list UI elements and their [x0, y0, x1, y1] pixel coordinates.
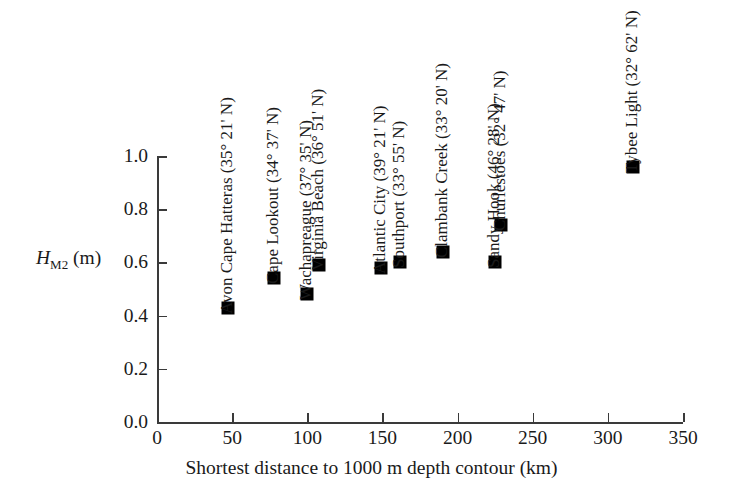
y-axis-tick-label: 0.4	[124, 306, 148, 326]
y-axis-tick	[158, 369, 167, 371]
scatter-chart-figure: HM2 (m) 0.00.20.40.60.81.0 0501001502002…	[0, 0, 743, 497]
x-axis-tick	[683, 413, 685, 422]
y-axis-tick	[158, 422, 167, 424]
y-axis-tick	[158, 316, 167, 318]
y-axis-tick-label: 0.0	[124, 412, 148, 432]
y-axis-tick-label: 0.2	[124, 359, 148, 379]
data-point-label: Wachapreague (37° 35' N)	[297, 120, 314, 300]
x-axis-tick	[458, 413, 460, 422]
data-point-label: Churlestoes (32° 47' N)	[491, 71, 508, 231]
data-point-label: Southport (33° 55' N)	[390, 121, 407, 268]
x-axis-tick	[382, 413, 384, 422]
x-axis-tick-label: 100	[293, 428, 322, 448]
x-axis-title: Shortest distance to 1000 m depth contou…	[0, 458, 743, 478]
x-axis-tick-label: 200	[443, 428, 472, 448]
y-axis-line	[157, 156, 159, 422]
y-axis-tick	[158, 262, 167, 264]
x-axis-tick-label: 250	[518, 428, 547, 448]
x-axis-tick-label: 150	[368, 428, 397, 448]
x-axis-tick-label: 0	[152, 428, 162, 448]
data-point-label: Atlantic City (39° 21' N)	[371, 105, 388, 274]
x-axis-tick	[157, 413, 159, 422]
plot-area: 0.00.20.40.60.81.0 050100150200250300350…	[157, 156, 683, 422]
data-point-label: Clambank Creek (33° 20' N)	[433, 63, 450, 258]
data-point-label: Avon Cape Hatteras (35° 21' N)	[218, 97, 235, 314]
x-axis-tick-label: 300	[593, 428, 622, 448]
y-axis-tick-label: 1.0	[124, 146, 148, 166]
data-point-label: Tybee Light (32° 62' N)	[623, 10, 640, 173]
data-point-label: Cape Lookout (34° 37' N)	[264, 107, 281, 284]
y-axis-tick	[158, 156, 167, 158]
y-axis-tick-label: 0.6	[124, 253, 148, 273]
x-axis-tick	[307, 413, 309, 422]
x-axis-tick	[608, 413, 610, 422]
x-axis-tick	[232, 413, 234, 422]
y-axis-units: (m)	[73, 247, 101, 268]
y-axis-title: HM2 (m)	[36, 248, 101, 271]
y-axis-tick	[158, 209, 167, 211]
x-axis-tick-label: 350	[668, 428, 697, 448]
y-axis-subscript: M2	[50, 257, 68, 272]
x-axis-tick	[533, 413, 535, 422]
x-axis-tick-label: 50	[222, 428, 242, 448]
y-axis-symbol: H	[36, 247, 50, 268]
x-axis-line	[157, 422, 683, 424]
y-axis-tick-label: 0.8	[124, 199, 148, 219]
